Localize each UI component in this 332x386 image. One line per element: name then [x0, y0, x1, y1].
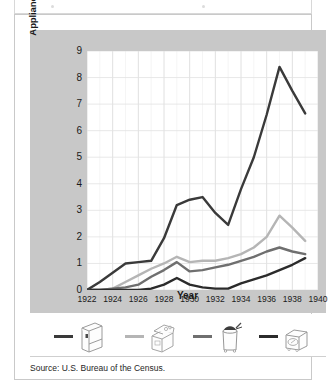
top-white-strip — [14, 0, 312, 14]
y-tick-label: 6 — [66, 126, 82, 136]
legend-item-vacuum-cleaner[interactable] — [259, 318, 311, 354]
y-tick-label: 1 — [66, 258, 82, 268]
registration-mark — [51, 5, 54, 8]
y-tick-label: 9 — [66, 46, 82, 56]
y-tick-label: 3 — [66, 205, 82, 215]
legend-line-swatch — [54, 335, 73, 338]
plot-area — [87, 51, 318, 290]
legend-line-swatch — [259, 335, 278, 338]
chart-legend — [30, 314, 326, 357]
y-tick-label: 7 — [66, 99, 82, 109]
plot-panel: Appliances produced (in millions) 012345… — [30, 30, 326, 313]
y-tick-label: 5 — [66, 152, 82, 162]
series-line-refrigerator — [87, 67, 305, 290]
legend-item-refrigerator[interactable] — [54, 318, 106, 354]
registration-mark — [202, 5, 205, 8]
stove-range-icon — [147, 319, 177, 353]
y-tick-label: 4 — [66, 179, 82, 189]
series-line-stove-range — [87, 216, 305, 290]
legend-item-washing-machine[interactable] — [193, 318, 245, 354]
chart-series-lines — [87, 51, 318, 290]
y-axis-title: Appliances produced (in millions) — [26, 0, 40, 66]
chart-card: Appliances produced (in millions) 012345… — [14, 14, 312, 380]
y-tick-label: 8 — [66, 73, 82, 83]
x-tick-label: 1940 — [303, 294, 332, 304]
refrigerator-icon — [76, 319, 106, 353]
vacuum-cleaner-icon — [281, 319, 311, 353]
legend-line-swatch — [125, 335, 144, 338]
washing-machine-icon — [215, 319, 245, 353]
source-note: Source: U.S. Bureau of the Census. — [30, 363, 300, 373]
legend-item-stove-range[interactable] — [125, 318, 177, 354]
x-axis-title: Year — [72, 290, 303, 301]
legend-line-swatch — [193, 335, 212, 338]
y-tick-label: 2 — [66, 232, 82, 242]
